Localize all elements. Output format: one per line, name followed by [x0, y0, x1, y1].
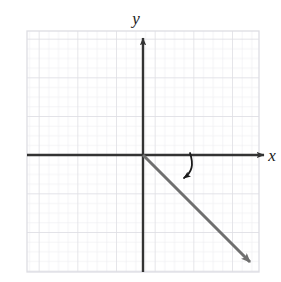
y-axis-label: y [130, 9, 140, 28]
coordinate-plane-figure: x y [0, 0, 281, 282]
x-axis-label: x [267, 146, 276, 165]
coordinate-plane-svg: x y [0, 0, 281, 282]
